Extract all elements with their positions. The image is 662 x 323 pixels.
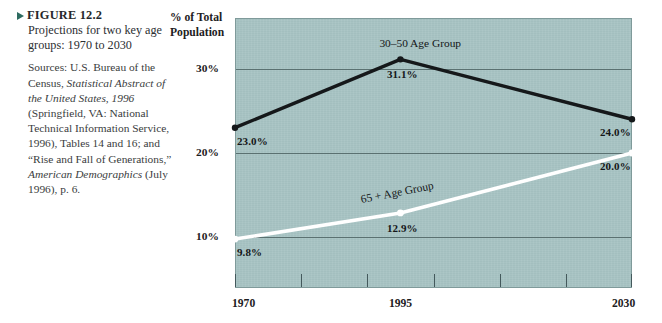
x-axis-tick xyxy=(367,274,368,287)
series-line xyxy=(235,59,632,127)
x-axis-tick-label: 2030 xyxy=(612,297,635,310)
x-axis-tick xyxy=(500,274,501,287)
data-point-marker xyxy=(397,210,404,217)
data-point-marker xyxy=(232,124,238,130)
data-point-label: 12.9% xyxy=(387,222,418,234)
y-axis-tick-label: 20% xyxy=(196,146,219,158)
data-point-label: 20.0% xyxy=(600,160,631,172)
data-point-marker xyxy=(232,236,239,243)
x-axis-tick xyxy=(631,274,632,287)
x-axis-tick-label: 1970 xyxy=(232,297,255,310)
x-axis-tick xyxy=(434,274,435,287)
data-point-label: 31.1% xyxy=(387,68,418,80)
y-axis-tick-label: 10% xyxy=(196,230,219,242)
series-lines xyxy=(0,0,662,323)
data-point-marker xyxy=(629,116,635,122)
series-label: 30–50 Age Group xyxy=(379,37,461,49)
data-point-marker xyxy=(629,150,636,157)
data-point-label: 24.0% xyxy=(600,126,631,138)
chart: % of Total Population 30%20%10%197019952… xyxy=(0,0,662,323)
x-axis-tick xyxy=(566,274,567,287)
data-point-label: 9.8% xyxy=(237,246,262,258)
y-axis-tick-label: 30% xyxy=(196,62,219,74)
data-point-marker xyxy=(397,56,403,62)
x-axis-tick xyxy=(235,274,236,287)
x-axis-tick xyxy=(301,274,302,287)
series-line xyxy=(235,153,632,239)
data-point-label: 23.0% xyxy=(237,135,268,147)
figure-page: FIGURE 12.2 Projections for two key age … xyxy=(0,0,662,323)
x-axis-tick-label: 1995 xyxy=(389,297,412,310)
